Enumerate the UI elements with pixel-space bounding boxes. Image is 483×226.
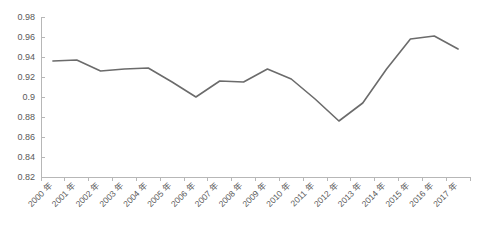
x-axis-tick-label-text: 2001 年 [50,180,78,208]
y-axis-tick-label: 0.88 [17,112,35,122]
y-axis-tick-label: 0.92 [17,72,35,82]
x-axis-tick-label: 2016 年 [407,180,435,208]
x-axis-tick-label: 2010 年 [264,180,292,208]
data-series-group [53,36,458,121]
x-axis-tick-label-text: 2002 年 [74,180,102,208]
x-axis-tick-label: 2006 年 [169,180,197,208]
y-axis-tick-label: 0.98 [17,12,35,22]
x-axis-tick-label: 2008 年 [217,180,245,208]
x-axis-tick-label-text: 2005 年 [145,180,173,208]
x-axis-tick-label: 2015 年 [383,180,411,208]
x-axis-tick-label-text: 2010 年 [264,180,292,208]
x-axis-tick-label-text: 2011 年 [288,180,316,208]
x-axis-tick-label: 2011 年 [288,180,316,208]
x-axis-tick-label: 2005 年 [145,180,173,208]
y-axis-tick-label: 0.84 [17,152,35,162]
x-axis-tick-label-text: 2013 年 [336,180,364,208]
line-chart-figure: 0.980.960.940.920.90.880.860.840.82 2000… [0,0,483,226]
x-axis-tick-label-text: 2017 年 [431,180,459,208]
x-axis-tick-label: 2007 年 [193,180,221,208]
x-axis-tick-label-text: 2003 年 [97,180,125,208]
x-axis-tick-label: 2017 年 [431,180,459,208]
x-axis-tick-label: 2012 年 [312,180,340,208]
y-axis-tick-label: 0.94 [17,52,35,62]
x-axis-tick-label-text: 2016 年 [407,180,435,208]
data-line-series-1 [53,36,458,121]
x-axis [41,177,470,181]
x-axis-tick-label-text: 2000 年 [26,180,54,208]
y-axis-tick-label: 0.9 [22,92,35,102]
y-axis-tick-label: 0.82 [17,172,35,182]
x-axis-tick-label: 2014 年 [360,180,388,208]
x-axis-tick-label: 2002 年 [74,180,102,208]
y-axis-tick-label: 0.86 [17,132,35,142]
y-axis: 0.980.960.940.920.90.880.860.840.82 [17,12,45,182]
x-axis-tick-label-text: 2012 年 [312,180,340,208]
x-axis-tick-label: 2013 年 [336,180,364,208]
x-axis-tick-labels: 2000 年2001 年2002 年2003 年2004 年2005 年2006… [26,180,460,208]
x-axis-tick-label-text: 2004 年 [121,180,149,208]
x-axis-tick-label: 2004 年 [121,180,149,208]
x-axis-tick-label-text: 2009 年 [240,180,268,208]
x-axis-tick-label: 2003 年 [97,180,125,208]
x-axis-tick-label-text: 2014 年 [360,180,388,208]
chart-canvas: 0.980.960.940.920.90.880.860.840.82 2000… [0,0,483,226]
x-axis-tick-label: 2001 年 [50,180,78,208]
y-axis-tick-label: 0.96 [17,32,35,42]
x-axis-tick-label: 2009 年 [240,180,268,208]
x-axis-tick-label-text: 2007 年 [193,180,221,208]
x-axis-tick-label-text: 2008 年 [217,180,245,208]
x-axis-tick-label-text: 2006 年 [169,180,197,208]
x-axis-tick-label: 2000 年 [26,180,54,208]
x-axis-tick-label-text: 2015 年 [383,180,411,208]
